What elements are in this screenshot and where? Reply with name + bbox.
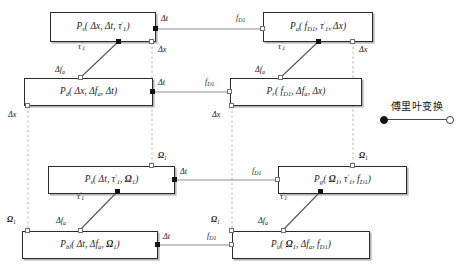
port-om-n7-in[interactable] xyxy=(25,228,30,233)
link-n2-n4 xyxy=(280,42,318,78)
label-dfa-r1-left: Δfa xyxy=(55,66,65,75)
port-dx-n3-out[interactable] xyxy=(25,103,30,108)
label-dx-r1-right: Δx xyxy=(359,46,367,54)
node-label: Ps( Δx, Δt, τ′1) xyxy=(76,21,129,32)
port-fd1-n4-in[interactable] xyxy=(227,89,232,94)
node-label: Pr( fD1, Δfa, Δx) xyxy=(267,87,326,97)
label-dfa-r2-right: Δfa xyxy=(255,66,265,75)
port-dx-n4-out[interactable] xyxy=(229,103,234,108)
label-fd1-r1-right: fD1 xyxy=(236,14,245,23)
label-fd1-r3-right: fD1 xyxy=(252,167,261,176)
node-label: Pu( Ω1, Δfa, fD1) xyxy=(271,240,331,250)
port-dfa-n3-in[interactable] xyxy=(78,75,83,80)
label-om-r3-mid: Ω1 xyxy=(158,152,167,161)
legend-source-marker xyxy=(380,116,388,124)
label-dfa-r3-rt: Δfa xyxy=(258,217,268,226)
label-dx-r2-mid: Δx xyxy=(212,111,220,119)
port-tau-n1-out[interactable] xyxy=(116,39,121,44)
node-pu-om-dfa-fd1[interactable]: Pu( Ω1, Δfa, fD1) xyxy=(232,231,370,259)
port-dt-n5-out[interactable] xyxy=(172,177,177,182)
label-om-r3-right: Ω1 xyxy=(359,152,368,161)
port-tau-n6-out[interactable] xyxy=(318,189,323,194)
port-om-n6-in[interactable] xyxy=(350,163,355,168)
node-pbl-dt-dfa-om[interactable]: Pbl( Δt, Δfa, Ω1) xyxy=(22,231,158,259)
legend-line xyxy=(384,119,450,120)
legend-label: 傅里叶变换 xyxy=(391,98,444,113)
link-n5-n7 xyxy=(80,192,117,230)
node-ps-dx-dt-tau[interactable]: Ps( Δx, Δt, τ′1) xyxy=(50,12,156,42)
node-pd-dx-dfa-dt[interactable]: Pd( Δx, Δfa, Δt) xyxy=(24,78,153,106)
port-om-n8-in[interactable] xyxy=(229,228,234,233)
port-dt-n3-out[interactable] xyxy=(150,89,155,94)
node-label: Pa( fD1, τ′1, Δx) xyxy=(290,21,346,32)
label-fd1-r4-right: fD1 xyxy=(207,232,216,241)
port-fd1-n2-in[interactable] xyxy=(260,26,265,31)
node-pa-fd1-tau-dx[interactable]: Pa( fD1, τ′1, Δx) xyxy=(263,12,373,42)
port-dt-n1-out[interactable] xyxy=(153,26,158,31)
legend: 傅里叶变换 xyxy=(380,98,454,124)
label-tau-r3-left: τ′1 xyxy=(77,192,84,202)
label-dt-r3-left: Δt xyxy=(180,168,187,176)
label-dx-r1-mid: Δx xyxy=(158,46,166,54)
port-dt-n7-out[interactable] xyxy=(155,242,160,247)
label-dt-r4-left: Δt xyxy=(163,233,170,241)
label-dfa-r3-left: Δfa xyxy=(56,217,66,226)
port-tau-n2-out[interactable] xyxy=(316,39,321,44)
port-dx-n1-out[interactable] xyxy=(149,39,154,44)
port-dfa-n7-in[interactable] xyxy=(78,228,83,233)
fourier-transform-diagram: Ps( Δx, Δt, τ′1) Pa( fD1, τ′1, Δx) Δt fD… xyxy=(0,0,469,270)
node-label: Pd( Δx, Δfa, Δt) xyxy=(60,87,117,97)
port-fd1-n6-in[interactable] xyxy=(275,177,280,182)
node-pg-om-tau-fd1[interactable]: Pg( Ω1, τ′1, fD1) xyxy=(278,166,407,194)
port-tau-n5-out[interactable] xyxy=(115,189,120,194)
port-dfa-n8-in[interactable] xyxy=(281,228,286,233)
port-dfa-n4-in[interactable] xyxy=(278,75,283,80)
legend-target-marker xyxy=(446,116,454,124)
node-pr-fd1-dfa-dx[interactable]: Pr( fD1, Δfa, Δx) xyxy=(230,78,362,106)
port-om-n5-in[interactable] xyxy=(149,163,154,168)
legend-connector-sample xyxy=(380,115,454,124)
label-om-r4-mid: Ω1 xyxy=(211,216,220,225)
node-label: Ps( Δt, τ′1, Ω1) xyxy=(85,174,139,185)
node-label: Pg( Ω1, τ′1, fD1) xyxy=(314,174,371,185)
port-dx-n2-out[interactable] xyxy=(350,39,355,44)
label-tau-r2-right: τ′1 xyxy=(278,42,285,52)
label-dt-r1-left: Δt xyxy=(161,15,168,23)
label-tau-r3-right: τ′1 xyxy=(280,192,287,202)
label-tau-r1-left: τ′1 xyxy=(78,42,85,52)
label-fd1-r2-right: fD1 xyxy=(205,78,214,87)
label-dt-r2-left: Δt xyxy=(158,79,165,87)
node-ps-dt-tau-om[interactable]: Ps( Δt, τ′1, Ω1) xyxy=(48,166,175,194)
label-om-r4-left: Ω1 xyxy=(7,216,16,225)
link-n6-n8 xyxy=(283,192,320,230)
label-dx-r2-left: Δx xyxy=(8,111,16,119)
port-fd1-n8-in[interactable] xyxy=(229,242,234,247)
link-n1-n3 xyxy=(80,42,118,78)
node-label: Pbl( Δt, Δfa, Ω1) xyxy=(60,240,120,250)
